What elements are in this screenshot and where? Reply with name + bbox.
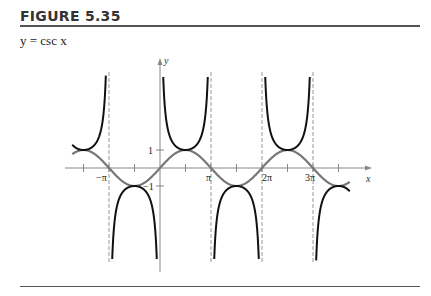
y-axis-arrow-icon (158, 58, 163, 65)
tick-label-2pi: 2π (262, 172, 272, 183)
x-axis-arrow-icon (365, 166, 372, 171)
tick-label-one: 1 (148, 145, 153, 156)
tick-label-neg-pi: −π (96, 172, 107, 183)
tick-label-pi: π (206, 172, 211, 183)
y-axis-label: y (163, 55, 169, 66)
csc-plot: y x −π π 2π 3π 1 −1 (0, 0, 431, 296)
tick-label-neg-one: −1 (143, 181, 154, 192)
bottom-rule (20, 286, 420, 287)
tick-label-3pi: 3π (305, 172, 315, 183)
x-axis-label: x (365, 173, 371, 184)
